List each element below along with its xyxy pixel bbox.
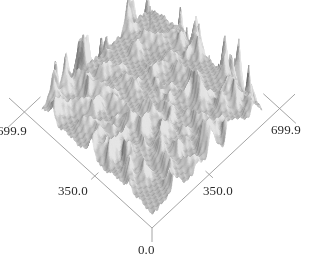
axis-label-y-max: 699.9 <box>271 123 301 136</box>
axis-label-x-max: 699.9 <box>0 124 27 137</box>
axis-label-origin: 0.0 <box>138 243 155 256</box>
axis-label-x-mid: 350.0 <box>58 184 88 197</box>
axis-label-y-mid: 350.0 <box>203 184 233 197</box>
surface-topography-canvas <box>0 0 312 265</box>
surface-plot-figure: 699.9 699.9 350.0 350.0 0.0 <box>0 0 312 265</box>
